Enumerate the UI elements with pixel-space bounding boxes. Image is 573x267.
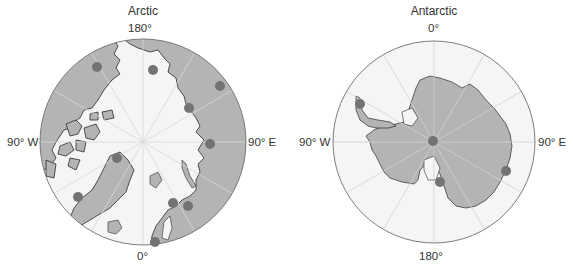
arctic-map: [30, 30, 260, 260]
station-marker: [183, 201, 193, 211]
station-marker: [112, 153, 122, 163]
station-marker: [148, 65, 158, 75]
station-marker: [184, 103, 194, 113]
station-marker: [355, 99, 365, 109]
station-marker: [435, 177, 445, 187]
station-marker: [215, 81, 225, 91]
station-marker: [428, 136, 438, 146]
station-marker: [92, 62, 102, 72]
station-marker: [205, 139, 215, 149]
station-marker: [150, 237, 160, 247]
station-marker: [73, 192, 83, 202]
polar-maps-canvas: [0, 0, 573, 267]
station-marker: [501, 166, 511, 176]
station-marker: [168, 198, 178, 208]
